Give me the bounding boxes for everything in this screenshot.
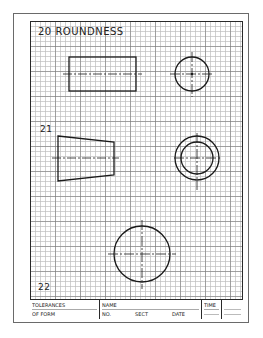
name-field-label: NAME [102, 301, 199, 310]
time-blank-line [204, 310, 219, 315]
problem-20-title: 20 ROUNDNESS [38, 27, 124, 37]
time-field-label: TIME [204, 301, 219, 310]
title-block-time-cell: TIME [202, 300, 222, 319]
no-field-label: NO. [102, 310, 111, 318]
title-block-grade-cell [222, 300, 243, 319]
title-block: TOLERANCES OF FORM NAME NO. SECT DATE TI… [30, 299, 243, 319]
drawing-sheet: 20 ROUNDNESS 21 22 TOLERANCES OF FORM NA… [0, 0, 263, 338]
problem-22-number: 22 [38, 283, 50, 292]
topic-line-1: TOLERANCES [32, 301, 97, 310]
date-field-label: DATE [172, 310, 185, 318]
title-block-topic-cell: TOLERANCES OF FORM [30, 300, 100, 319]
title-block-student-cell: NAME NO. SECT DATE [100, 300, 202, 319]
student-info-row: NO. SECT DATE [102, 310, 199, 318]
problem-21-number: 21 [40, 125, 52, 134]
grid-drawing-area [30, 21, 243, 319]
cropped-caption [38, 331, 98, 338]
sect-field-label: SECT [135, 310, 148, 318]
topic-line-2: OF FORM [32, 310, 97, 318]
grade-blank-line-1 [224, 301, 241, 310]
grade-blank-line-2 [224, 310, 241, 315]
